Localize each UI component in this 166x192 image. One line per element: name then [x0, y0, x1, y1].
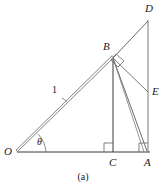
segment-BA-inner	[113, 58, 144, 152]
right-angle-marker-C	[104, 143, 113, 152]
length-tick-OB	[62, 98, 67, 102]
vertex-label-C: C	[109, 157, 116, 168]
vertex-label-D: D	[145, 3, 153, 14]
vertex-label-E: E	[152, 86, 159, 97]
segment-OB-unit-double	[16, 56, 114, 152]
segment-BD	[113, 21, 148, 58]
vertex-label-B: B	[103, 41, 110, 52]
length-label-OB: 1	[52, 85, 57, 95]
vertex-label-A: A	[144, 157, 151, 168]
segment-BA	[113, 58, 147, 151]
geometry-diagram-canvas	[0, 0, 166, 192]
geometry-figure-panel: D B E O C A θ 1 (a)	[0, 0, 166, 192]
vertex-label-O: O	[4, 146, 12, 157]
figure-caption: (a)	[0, 172, 166, 182]
angle-label-theta: θ	[37, 137, 42, 147]
